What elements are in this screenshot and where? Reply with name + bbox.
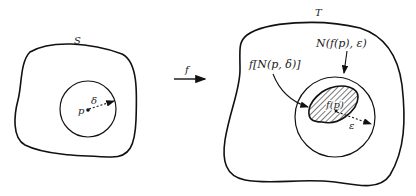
image-set-pointer [273,74,308,107]
epsilon-label: ε [349,120,354,131]
continuity-diagram: S p δ f T f(p) ε N(f(p), ε) f[N(p, δ)] [0,0,416,196]
set-t-label: T [315,7,323,18]
point-fp [335,110,338,113]
image-set-label: f[N(p, δ)] [248,58,301,71]
mapping-label: f [184,64,191,75]
neighborhood-label: N(f(p), ε) [315,37,367,50]
set-s-label: S [74,35,81,46]
point-p-label: p [78,105,85,116]
neighborhood-pointer [344,51,347,73]
delta-label: δ [91,95,97,106]
image-point-label: f(p) [325,99,344,110]
set-s-boundary [15,44,137,157]
